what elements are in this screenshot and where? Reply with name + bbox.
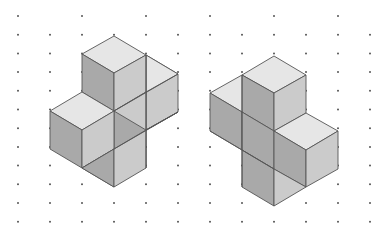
grid-dot <box>17 34 19 36</box>
grid-dot <box>145 15 147 17</box>
grid-dot <box>81 34 83 36</box>
grid-dot <box>241 52 243 54</box>
grid-dot <box>177 52 179 54</box>
grid-dot <box>17 71 19 73</box>
grid-dot <box>17 127 19 129</box>
grid-dot <box>177 34 179 36</box>
grid-dot <box>81 15 83 17</box>
grid-dot <box>17 52 19 54</box>
grid-dot <box>113 202 115 204</box>
grid-dot <box>369 165 371 167</box>
grid-dot <box>17 146 19 148</box>
grid-dot <box>241 71 243 73</box>
grid-dot <box>337 183 339 185</box>
grid-dot <box>17 183 19 185</box>
grid-dot <box>337 109 339 111</box>
grid-dot <box>113 221 115 223</box>
grid-dot <box>17 15 19 17</box>
grid-dot <box>209 183 211 185</box>
grid-dot <box>209 165 211 167</box>
grid-dot <box>305 221 307 223</box>
grid-dot <box>337 52 339 54</box>
grid-dot <box>209 71 211 73</box>
grid-dot <box>337 71 339 73</box>
grid-dot <box>145 202 147 204</box>
grid-dot <box>209 221 211 223</box>
grid-dot <box>209 202 211 204</box>
diagram-svg <box>0 0 391 236</box>
grid-dot <box>17 109 19 111</box>
grid-dot <box>305 34 307 36</box>
grid-dot <box>337 202 339 204</box>
grid-dot <box>369 183 371 185</box>
grid-dot <box>145 183 147 185</box>
grid-dot <box>177 183 179 185</box>
grid-dot <box>273 221 275 223</box>
grid-dot <box>49 183 51 185</box>
grid-dot <box>49 52 51 54</box>
grid-dot <box>337 90 339 92</box>
grid-dot <box>337 34 339 36</box>
grid-dot <box>49 71 51 73</box>
grid-dot <box>113 34 115 36</box>
grid-dot <box>305 52 307 54</box>
grid-dot <box>177 146 179 148</box>
grid-dot <box>369 127 371 129</box>
grid-dot <box>49 165 51 167</box>
grid-dot <box>177 165 179 167</box>
grid-dot <box>209 34 211 36</box>
grid-dot <box>273 15 275 17</box>
grid-dot <box>49 34 51 36</box>
grid-dot <box>209 15 211 17</box>
grid-dot <box>49 221 51 223</box>
grid-dot <box>369 146 371 148</box>
grid-dot <box>81 221 83 223</box>
grid-dot <box>17 202 19 204</box>
grid-dot <box>305 71 307 73</box>
grid-dot <box>81 183 83 185</box>
grid-dot <box>177 202 179 204</box>
grid-dot <box>17 165 19 167</box>
right-solid <box>210 56 338 206</box>
grid-dot <box>369 52 371 54</box>
grid-dot <box>369 71 371 73</box>
solids-group <box>50 36 338 206</box>
grid-dot <box>145 34 147 36</box>
grid-dot <box>305 202 307 204</box>
grid-dot <box>337 15 339 17</box>
grid-dot <box>337 221 339 223</box>
grid-dot <box>81 202 83 204</box>
grid-dot <box>17 90 19 92</box>
grid-dot <box>49 90 51 92</box>
grid-dot <box>369 90 371 92</box>
grid-dot <box>241 34 243 36</box>
grid-dot <box>49 202 51 204</box>
left-solid <box>50 36 178 187</box>
grid-dot <box>337 127 339 129</box>
grid-dot <box>209 90 211 92</box>
isometric-diagram <box>0 0 391 236</box>
grid-dot <box>209 52 211 54</box>
grid-dot <box>369 221 371 223</box>
grid-dot <box>241 221 243 223</box>
grid-dot <box>273 34 275 36</box>
grid-dot <box>241 202 243 204</box>
grid-dot <box>177 221 179 223</box>
grid-dot <box>273 52 275 54</box>
grid-dot <box>369 202 371 204</box>
grid-dot <box>209 146 211 148</box>
grid-dot <box>17 221 19 223</box>
grid-dot <box>369 109 371 111</box>
grid-dot <box>369 34 371 36</box>
grid-dot <box>177 127 179 129</box>
grid-dot <box>177 71 179 73</box>
grid-dot <box>145 221 147 223</box>
